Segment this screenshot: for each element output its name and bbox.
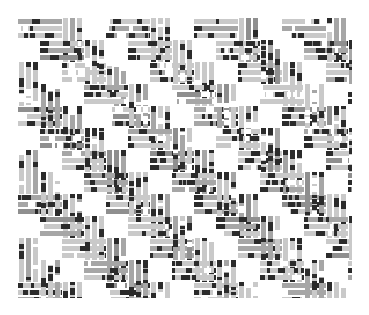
weave-svg [18, 18, 352, 298]
basket-weave-pattern [18, 18, 352, 298]
screenshot-canvas [0, 0, 369, 315]
